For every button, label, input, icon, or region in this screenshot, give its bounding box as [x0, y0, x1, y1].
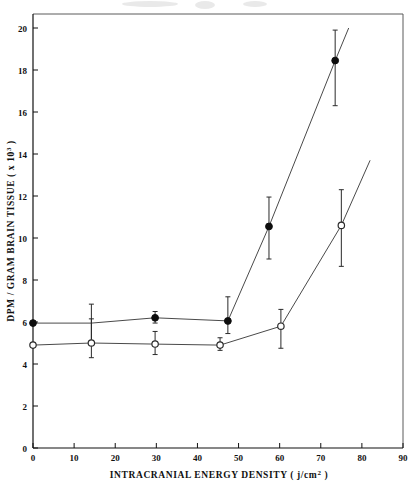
x-tick-label: 0: [31, 453, 36, 463]
series-polyline: [33, 160, 370, 345]
y-tick-label: 14: [18, 150, 28, 160]
data-point-open: [278, 323, 284, 329]
data-point-filled: [152, 314, 159, 321]
data-point-open: [88, 340, 94, 346]
x-tick-label: 10: [70, 453, 80, 463]
x-tick-label: 80: [357, 453, 367, 463]
y-tick-label: 6: [23, 318, 28, 328]
data-point-open: [338, 222, 344, 228]
y-tick-label: 20: [18, 24, 28, 34]
y-tick-label: 4: [23, 360, 28, 370]
series-polyline: [33, 28, 349, 323]
scan-artifact: [122, 1, 267, 9]
y-tick-label: 2: [23, 402, 28, 412]
x-axis-ticks: 0102030405060708090: [31, 443, 408, 463]
data-point-open: [30, 342, 36, 348]
y-tick-label: 0: [23, 444, 28, 454]
x-tick-label: 60: [275, 453, 285, 463]
axes: [33, 14, 403, 448]
data-series-layer: [30, 28, 371, 358]
data-point-filled: [332, 57, 339, 64]
filled-circle-series: [30, 28, 349, 341]
x-tick-label: 90: [399, 453, 409, 463]
x-tick-label: 50: [234, 453, 244, 463]
y-tick-label: 18: [18, 66, 28, 76]
y-tick-label: 8: [23, 276, 28, 286]
x-tick-label: 70: [316, 453, 326, 463]
y-axis-ticks: 02468101214161820: [18, 24, 38, 454]
x-tick-label: 20: [111, 453, 121, 463]
data-point-open: [217, 342, 223, 348]
y-tick-label: 10: [18, 234, 28, 244]
x-tick-label: 40: [193, 453, 203, 463]
data-point-filled: [224, 318, 231, 325]
data-point-filled: [266, 223, 273, 230]
figure-panel: 02468101214161820 0102030405060708090 IN…: [0, 0, 418, 488]
data-point-open: [152, 341, 158, 347]
open-circle-series: [30, 160, 370, 357]
y-tick-label: 16: [18, 108, 28, 118]
x-axis-title: INTRACRANIAL ENERGY DENSITY ( j/cm2 ): [110, 469, 328, 482]
y-axis-title: DPM / GRAM BRAIN TISSUE ( x 103 ): [5, 140, 18, 322]
plot-frame: [33, 14, 403, 448]
line-chart-svg: 02468101214161820 0102030405060708090 IN…: [0, 0, 418, 488]
x-tick-label: 30: [152, 453, 162, 463]
data-point-filled: [30, 320, 37, 327]
y-tick-label: 12: [18, 192, 28, 202]
